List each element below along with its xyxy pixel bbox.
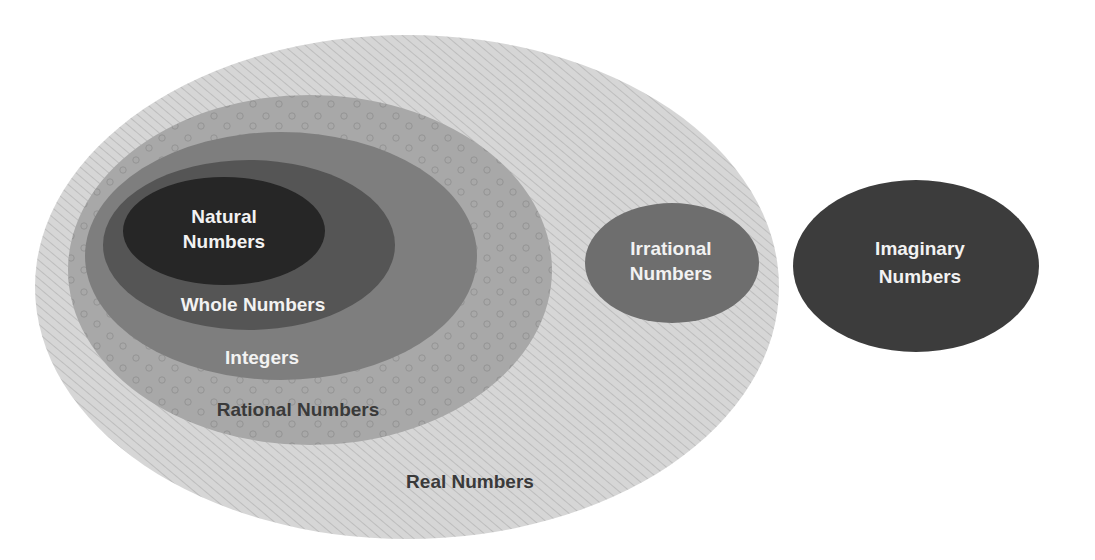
label-rational-numbers: Rational Numbers [217, 399, 380, 420]
label-natural-line2: Numbers [183, 231, 265, 252]
label-irrational-line1: Irrational [630, 238, 711, 259]
label-whole-numbers: Whole Numbers [181, 294, 326, 315]
label-imaginary-line2: Numbers [879, 266, 961, 287]
number-sets-diagram: Natural Numbers Whole Numbers Integers R… [0, 0, 1095, 560]
label-real-numbers: Real Numbers [406, 471, 534, 492]
label-integers: Integers [225, 347, 299, 368]
label-irrational-line2: Numbers [630, 263, 712, 284]
label-natural-line1: Natural [191, 206, 256, 227]
label-imaginary-line1: Imaginary [875, 238, 965, 259]
